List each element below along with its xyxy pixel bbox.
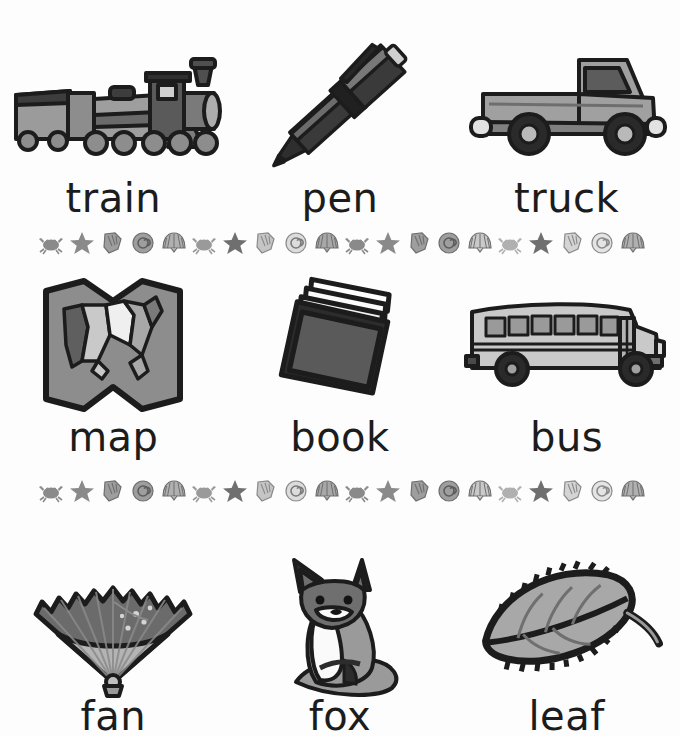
word-card-leaf[interactable]: leaf (454, 522, 680, 736)
spiral-shell-icon (130, 478, 156, 504)
word-card-row-1: train (0, 18, 680, 218)
scallop-shell-icon (467, 230, 493, 256)
crab-icon (344, 478, 370, 504)
map-icon (8, 281, 218, 409)
spiral-shell-icon (283, 230, 309, 256)
train-icon (8, 42, 218, 170)
spiral-shell-icon (436, 230, 462, 256)
crab-icon (497, 230, 523, 256)
word-card-train[interactable]: train (0, 18, 226, 218)
scallop-shell-icon (161, 230, 187, 256)
word-label: train (66, 178, 162, 218)
starfish-icon (222, 478, 248, 504)
crab-icon (191, 230, 217, 256)
word-card-truck[interactable]: truck (454, 18, 680, 218)
starfish-icon (528, 230, 554, 256)
picture-word-worksheet: train (0, 0, 680, 736)
starfish-icon (69, 230, 95, 256)
word-card-bus[interactable]: bus (454, 272, 680, 457)
crab-icon (344, 230, 370, 256)
word-label: bus (530, 417, 603, 457)
crab-icon (38, 230, 64, 256)
spiral-shell-icon (283, 478, 309, 504)
word-card-fan[interactable]: fan (0, 522, 226, 736)
leaf-icon (462, 564, 672, 692)
starfish-icon (222, 230, 248, 256)
pen-icon (235, 42, 445, 170)
word-card-fox[interactable]: fox (227, 522, 453, 736)
starfish-icon (375, 230, 401, 256)
spiral-shell-icon (436, 478, 462, 504)
starfish-icon (69, 478, 95, 504)
bus-icon (462, 281, 672, 409)
scallop-shell-icon (620, 478, 646, 504)
conch-shell-icon (99, 230, 125, 256)
conch-shell-icon (406, 478, 432, 504)
starfish-icon (375, 478, 401, 504)
word-label: leaf (528, 696, 604, 736)
fan-icon (8, 564, 218, 692)
scallop-shell-icon (161, 478, 187, 504)
word-card-row-2: map (0, 272, 680, 457)
crab-icon (497, 478, 523, 504)
conch-shell-icon (559, 230, 585, 256)
word-card-pen[interactable]: pen (227, 18, 453, 218)
word-label: truck (514, 178, 619, 218)
spiral-shell-icon (589, 478, 615, 504)
scallop-shell-icon (467, 478, 493, 504)
book-icon (235, 281, 445, 409)
word-card-book[interactable]: book (227, 272, 453, 457)
conch-shell-icon (559, 478, 585, 504)
starfish-icon (528, 478, 554, 504)
scallop-shell-icon (620, 230, 646, 256)
word-label: pen (302, 178, 379, 218)
word-label: book (290, 417, 390, 457)
seashell-divider-1 (38, 226, 646, 260)
word-label: fox (309, 696, 372, 736)
truck-icon (462, 42, 672, 170)
word-label: fan (81, 696, 146, 736)
spiral-shell-icon (130, 230, 156, 256)
crab-icon (191, 478, 217, 504)
conch-shell-icon (99, 478, 125, 504)
scallop-shell-icon (314, 478, 340, 504)
spiral-shell-icon (589, 230, 615, 256)
seashell-divider-2 (38, 474, 646, 508)
conch-shell-icon (252, 478, 278, 504)
scallop-shell-icon (314, 230, 340, 256)
fox-icon (235, 564, 445, 692)
conch-shell-icon (252, 230, 278, 256)
conch-shell-icon (406, 230, 432, 256)
word-label: map (68, 417, 158, 457)
crab-icon (38, 478, 64, 504)
word-card-map[interactable]: map (0, 272, 226, 457)
word-card-row-3: fan (0, 522, 680, 736)
